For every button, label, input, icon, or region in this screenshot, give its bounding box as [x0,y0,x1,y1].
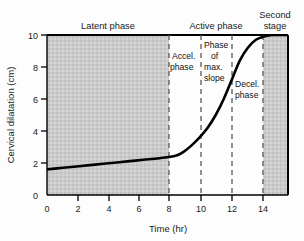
latent-phase-shading [47,35,169,195]
y-tick-label-10: 10 [28,31,38,41]
labor-curve-chart: 10 8 6 4 2 0 0 2 4 6 8 10 12 14 [0,0,304,241]
x-tick-label-0: 0 [44,204,49,214]
y-tick-label-2: 2 [33,159,38,169]
y-tick-label-4: 4 [33,127,38,137]
y-tick-label-0: 0 [33,191,38,201]
inner-label-maxslope-line3: max. [204,62,223,72]
inner-label-maxslope-line2: of [211,51,219,61]
top-label-latent-phase: Latent phase [81,21,135,31]
x-axis-title: Time (hr) [149,223,187,234]
inner-label-maxslope-line4: slope [204,73,225,83]
x-tick-label-4: 4 [106,204,111,214]
inner-label-accel-line2: phase [170,62,194,72]
top-label-second-stage-line1: Second [259,10,291,20]
y-axis-title: Cervical dilatation (cm) [5,67,16,164]
inner-label-maxslope-line1: Phase [204,40,229,50]
x-tick-label-10: 10 [196,204,206,214]
top-label-second-stage-line2: stage [264,21,287,31]
second-stage-shading [263,35,288,195]
inner-label-decel-line2: phase [235,90,259,100]
figure-container: 10 8 6 4 2 0 0 2 4 6 8 10 12 14 [0,0,304,241]
x-tick-label-14: 14 [258,204,268,214]
x-tick-label-6: 6 [136,204,141,214]
y-tick-label-8: 8 [33,63,38,73]
y-tick-label-6: 6 [33,95,38,105]
inner-label-decel-line1: Decel. [235,79,259,89]
x-tick-label-8: 8 [166,204,171,214]
x-tick-label-12: 12 [227,204,237,214]
x-tick-label-2: 2 [75,204,80,214]
top-label-active-phase: Active phase [189,21,242,31]
inner-label-accel-line1: Accel. [172,51,195,61]
